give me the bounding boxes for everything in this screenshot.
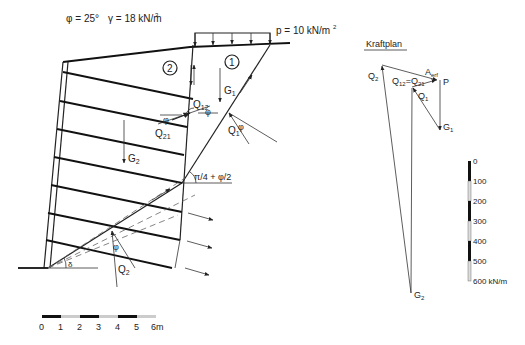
- delta-label: δ: [68, 260, 73, 269]
- svg-text:5: 5: [134, 322, 139, 332]
- q2-arrow: [112, 231, 117, 287]
- gamma-param: γ = 18 kN/m: [108, 13, 162, 24]
- delta-arc: [64, 258, 66, 268]
- resultant-arrows: [185, 213, 213, 275]
- svg-text:100: 100: [473, 177, 487, 186]
- q21-arrow: [172, 113, 190, 120]
- phi-param: φ = 25°: [66, 13, 99, 24]
- svg-text:6m: 6m: [151, 322, 164, 332]
- svg-text:0: 0: [473, 157, 478, 166]
- ground-surface: [63, 43, 290, 62]
- force-polygon: Kraftplan Q2 Q12=Q21 Aerf P Q1 G1 G2: [364, 39, 454, 301]
- length-scale: 0 1 2 3 4 5 6m: [39, 315, 164, 332]
- svg-text:3: 3: [96, 322, 101, 332]
- svg-text:G2: G2: [414, 290, 425, 301]
- load-label-sup: 2: [333, 24, 337, 30]
- g2-label: G2: [128, 153, 140, 165]
- q2-label: Q2: [118, 264, 130, 276]
- svg-text:P: P: [443, 77, 449, 87]
- surcharge-load: p = 10 kN/m 2: [195, 24, 337, 46]
- wedge-interface-lower: [175, 240, 180, 268]
- svg-text:2: 2: [167, 63, 173, 74]
- wall-face: [44, 62, 68, 268]
- angle-label: π/4 + φ/2: [194, 172, 231, 182]
- svg-text:1: 1: [58, 322, 63, 332]
- g1-label: G1: [224, 85, 236, 97]
- svg-text:0: 0: [39, 322, 44, 332]
- svg-text:Q1: Q1: [418, 91, 429, 102]
- svg-text:Q12=Q21: Q12=Q21: [392, 76, 425, 87]
- diagram-canvas: φ = 25° γ = 18 kN/m 3 p = 10 kN/m 2: [0, 0, 525, 345]
- phi-label-q21: φ: [163, 115, 169, 125]
- svg-text:G1: G1: [443, 122, 454, 133]
- svg-text:400: 400: [473, 237, 487, 246]
- phi-label-q1: φ: [238, 122, 244, 132]
- wedge-1-label: 1: [225, 55, 239, 69]
- phi-label-q2: φ: [113, 242, 119, 252]
- kraftplan-title: Kraftplan: [366, 39, 402, 49]
- svg-text:500: 500: [473, 257, 487, 266]
- svg-text:Q2: Q2: [368, 71, 379, 82]
- q21-label: Q21: [155, 128, 171, 140]
- dashed-line-1: [48, 178, 185, 268]
- slip-arrow-2: [152, 189, 170, 200]
- svg-text:1: 1: [229, 57, 235, 68]
- q1-normal: [229, 113, 277, 142]
- svg-text:2: 2: [77, 322, 82, 332]
- force-scale: 0 100 200 300 400 500 600 kN/m: [468, 157, 508, 286]
- phi-label-q12: φ: [205, 107, 211, 117]
- wedge-2-label: 2: [163, 61, 177, 75]
- svg-text:4: 4: [115, 322, 120, 332]
- svg-text:600 kN/m: 600 kN/m: [473, 277, 508, 286]
- load-label: p = 10 kN/m: [276, 25, 330, 36]
- svg-text:200: 200: [473, 197, 487, 206]
- reinforcement-layers: [46, 72, 193, 268]
- svg-text:300: 300: [473, 217, 487, 226]
- slip-arrow-1: [240, 75, 252, 93]
- parameters-header: φ = 25° γ = 18 kN/m 3: [66, 12, 162, 24]
- svg-text:Aerf: Aerf: [425, 67, 438, 78]
